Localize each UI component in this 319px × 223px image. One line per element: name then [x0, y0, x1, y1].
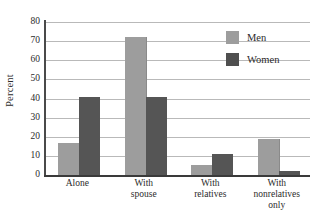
bar-women — [146, 97, 167, 175]
y-tick-label-70: 70 — [31, 36, 41, 46]
bar-chart: Percent 01020304050607080 AloneWithspous… — [0, 0, 319, 223]
legend-entry-women: Women — [226, 50, 314, 68]
legend-label-men: Men — [247, 32, 266, 43]
y-tick-label-60: 60 — [31, 56, 41, 66]
bar-group — [58, 22, 100, 175]
y-axis-title-text: Percent — [4, 74, 15, 107]
x-label-line: With — [238, 178, 317, 189]
bar-men — [125, 37, 147, 175]
bar-women — [79, 97, 100, 175]
x-axis-line — [44, 175, 310, 177]
x-label-line: nonrelatives — [238, 189, 317, 200]
x-axis-label: Withnonrelativesonly — [238, 178, 317, 211]
bar-group — [125, 22, 167, 175]
bar-women — [279, 171, 300, 175]
y-tick-label-30: 30 — [31, 113, 41, 123]
legend-swatch-women-icon — [226, 53, 239, 66]
y-tick-label-80: 80 — [31, 17, 41, 27]
bar-men — [191, 165, 213, 175]
x-axis-category-labels: AloneWithspouseWithrelativesWithnonrelat… — [44, 178, 310, 223]
y-axis-tick-labels: 01020304050607080 — [18, 0, 42, 223]
y-tick-label-40: 40 — [31, 94, 41, 104]
y-tick-label-10: 10 — [31, 151, 41, 161]
y-axis-title: Percent — [0, 0, 18, 180]
chart-legend: Men Women — [226, 28, 314, 72]
bar-women — [212, 154, 233, 175]
bar-men — [258, 139, 280, 175]
bar-men — [58, 143, 80, 176]
x-label-line: only — [238, 200, 317, 211]
legend-label-women: Women — [247, 54, 279, 65]
y-tick-label-20: 20 — [31, 132, 41, 142]
y-tick-label-50: 50 — [31, 75, 41, 85]
legend-swatch-men-icon — [226, 31, 239, 44]
legend-entry-men: Men — [226, 28, 314, 46]
